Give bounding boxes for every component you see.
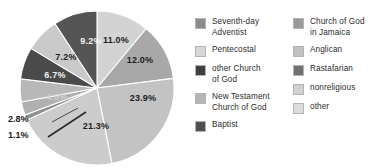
legend-item-label: Anglican <box>310 45 342 56</box>
legend-item[interactable]: nonreligious <box>293 83 373 95</box>
slice-value-label: 12.0% <box>127 55 154 65</box>
legend-column-right: Church of God in JamaicaAnglicanRastafar… <box>293 17 373 121</box>
slice-value-label: 21.3% <box>83 121 110 131</box>
legend-item-label: other Church of God <box>212 64 261 85</box>
legend-item-label: Pentecostal <box>212 45 256 56</box>
pie-slice-group <box>20 11 174 165</box>
legend-swatch <box>195 65 206 76</box>
legend-item-label: Baptist <box>212 120 238 131</box>
legend-item[interactable]: New Testament Church of God <box>195 92 295 113</box>
legend-item[interactable]: Anglican <box>293 45 373 57</box>
pie-chart-figure: 11.0%12.0%23.9%21.3%1.1%2.8%4.8%6.7%7.2%… <box>0 0 373 168</box>
legend-item-label: New Testament Church of God <box>212 92 270 113</box>
legend-item-label: Seventh-day Adventist <box>212 17 259 38</box>
legend-swatch <box>293 84 304 95</box>
legend-item[interactable]: Rastafarian <box>293 64 373 76</box>
legend-swatch <box>195 46 206 57</box>
slice-value-label-outside: 2.8% <box>8 114 29 124</box>
slice-value-label: 6.7% <box>44 70 65 80</box>
legend-item[interactable]: Church of God in Jamaica <box>293 17 373 38</box>
pie-plot-area: 11.0%12.0%23.9%21.3%1.1%2.8%4.8%6.7%7.2%… <box>0 0 190 168</box>
legend-swatch <box>293 18 304 29</box>
legend-swatch <box>195 121 206 132</box>
legend-item-label: Rastafarian <box>310 64 353 75</box>
pie-svg <box>0 0 190 168</box>
chart-legend: Seventh-day AdventistPentecostalother Ch… <box>190 0 373 168</box>
slice-value-label: 7.2% <box>55 52 76 62</box>
legend-item[interactable]: other <box>293 102 373 114</box>
legend-swatch <box>293 103 304 114</box>
legend-item[interactable]: Baptist <box>195 120 295 132</box>
legend-item-label: nonreligious <box>310 83 355 94</box>
slice-value-label: 11.0% <box>103 35 129 45</box>
legend-swatch <box>195 93 206 104</box>
legend-item-label: Church of God in Jamaica <box>310 17 365 38</box>
legend-swatch <box>293 65 304 76</box>
legend-item-label: other <box>310 102 329 113</box>
legend-column-left: Seventh-day AdventistPentecostalother Ch… <box>195 17 295 139</box>
legend-swatch <box>293 46 304 57</box>
legend-item[interactable]: Pentecostal <box>195 45 295 57</box>
legend-item[interactable]: Seventh-day Adventist <box>195 17 295 38</box>
slice-value-label: 4.8% <box>46 92 67 102</box>
legend-item[interactable]: other Church of God <box>195 64 295 85</box>
legend-swatch <box>195 18 206 29</box>
slice-value-label: 23.9% <box>130 93 157 103</box>
slice-value-label: 9.2% <box>80 36 101 46</box>
slice-value-label-outside: 1.1% <box>8 130 29 140</box>
